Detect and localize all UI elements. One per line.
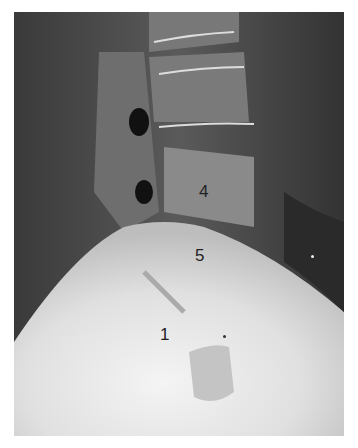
asterisk-marker xyxy=(223,335,226,338)
label-vertebra-4: 4 xyxy=(199,182,208,202)
vertebra-l3 xyxy=(149,52,249,122)
foramen-upper xyxy=(129,108,149,136)
foramen-lower xyxy=(135,180,153,204)
xray-image: 4 5 1 xyxy=(14,12,344,436)
xray-drawing xyxy=(14,12,344,436)
label-vertebra-5: 5 xyxy=(195,246,204,266)
label-sacral-1: 1 xyxy=(160,325,169,345)
sacral-shadow xyxy=(189,345,234,401)
dot-marker xyxy=(311,255,314,258)
